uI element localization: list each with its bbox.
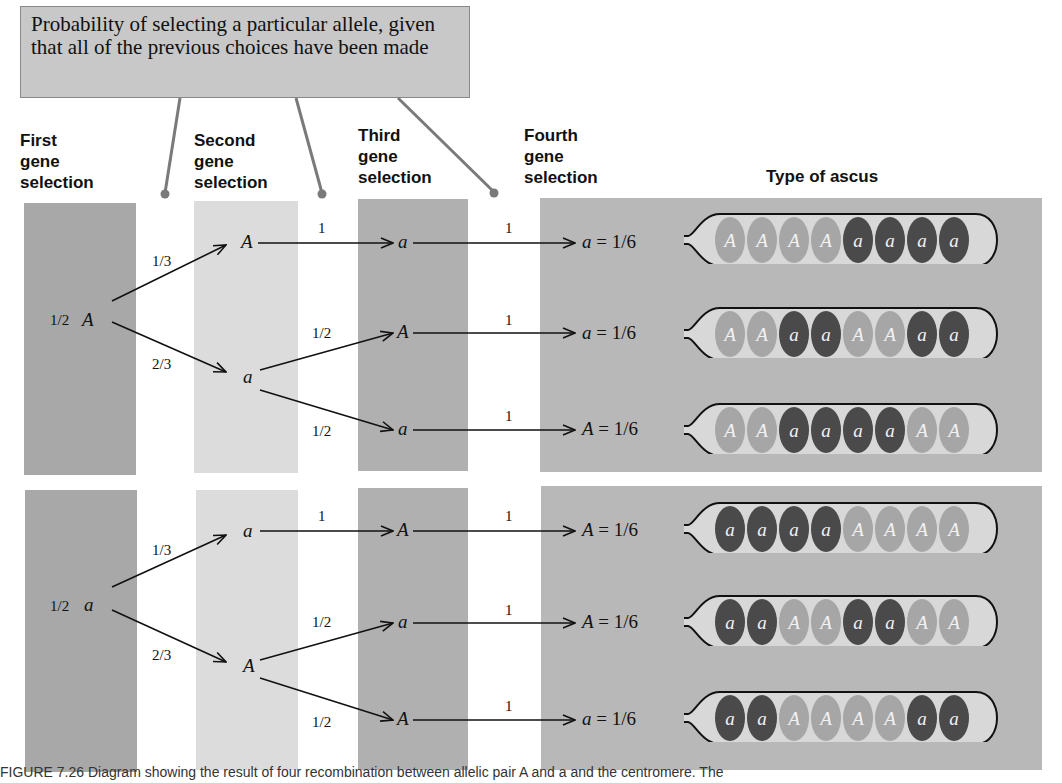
spore-label: a	[885, 612, 895, 633]
branch-prob: 1	[505, 312, 513, 329]
spore-label: a	[853, 230, 863, 251]
third-allele: a	[398, 418, 408, 440]
spore-label: a	[725, 708, 735, 729]
third-allele: A	[397, 519, 409, 541]
spore-label: A	[882, 708, 896, 729]
branch-prob: 1	[505, 508, 513, 525]
spore-label: A	[882, 324, 896, 345]
result-prob: 1/6	[614, 611, 638, 632]
fourth-allele: A	[582, 519, 594, 540]
fourth-result: a = 1/6	[582, 708, 636, 730]
root-allele-top: A	[82, 309, 94, 331]
result-prob: 1/6	[612, 231, 636, 252]
fourth-result: A = 1/6	[582, 418, 638, 440]
branch-prob: 1/3	[152, 542, 171, 559]
branch-prob: 1	[505, 408, 513, 425]
ascus: aaaaAAAA	[680, 499, 1000, 553]
spore-label: A	[850, 708, 864, 729]
spore-label: A	[914, 519, 928, 540]
spore-label: A	[818, 708, 832, 729]
result-prob: 1/6	[612, 708, 636, 729]
root-prob-bottom: 1/2	[50, 598, 69, 615]
third-allele: A	[397, 321, 409, 343]
spore-label: a	[917, 230, 927, 251]
spore-label: A	[722, 230, 736, 251]
spore-label: A	[786, 230, 800, 251]
result-prob: 1/6	[614, 519, 638, 540]
spore-label: A	[946, 420, 960, 441]
fourth-allele: a	[582, 231, 592, 252]
spore-label: a	[821, 519, 831, 540]
branch-prob: 1/3	[152, 253, 171, 270]
fourth-result: a = 1/6	[582, 231, 636, 253]
branch-prob: 1/2	[312, 423, 331, 440]
spore-label: a	[757, 708, 767, 729]
branch-prob: 1/2	[312, 714, 331, 731]
branch-prob: 2/3	[152, 647, 171, 664]
branch-prob: 1/2	[312, 614, 331, 631]
spore-label: a	[885, 420, 895, 441]
spore-label: A	[946, 612, 960, 633]
spore-label: A	[722, 324, 736, 345]
spore-label: a	[789, 324, 799, 345]
branch-prob: 1	[505, 698, 513, 715]
spore-label: a	[725, 519, 735, 540]
ascus: AAAAaaaa	[680, 210, 1000, 264]
fourth-result: a = 1/6	[582, 322, 636, 344]
third-allele: a	[398, 231, 408, 253]
spore-label: a	[949, 708, 959, 729]
branch-prob: 2/3	[152, 356, 171, 373]
spore-label: A	[818, 230, 832, 251]
spore-label: a	[789, 519, 799, 540]
ascus: AAaaAAaa	[680, 304, 1000, 358]
ascus: aaAAAAaa	[680, 688, 1000, 742]
spore-label: A	[786, 708, 800, 729]
spore-label: A	[754, 324, 768, 345]
spore-label: a	[885, 230, 895, 251]
third-allele: a	[398, 611, 408, 633]
tree-arrows	[0, 0, 1062, 783]
spore-label: a	[853, 420, 863, 441]
spore-label: A	[786, 612, 800, 633]
spore-label: a	[789, 420, 799, 441]
second-allele: A	[241, 231, 253, 253]
spore-label: a	[757, 519, 767, 540]
spore-label: a	[821, 324, 831, 345]
third-allele: A	[397, 708, 409, 730]
spore-label: A	[754, 230, 768, 251]
spore-label: A	[850, 519, 864, 540]
spore-label: a	[917, 708, 927, 729]
spore-label: a	[725, 612, 735, 633]
fourth-allele: A	[582, 611, 594, 632]
spore-label: a	[917, 324, 927, 345]
result-prob: 1/6	[614, 418, 638, 439]
spore-label: a	[757, 612, 767, 633]
fourth-allele: a	[582, 322, 592, 343]
spore-label: A	[882, 519, 896, 540]
fourth-result: A = 1/6	[582, 611, 638, 633]
second-allele: A	[243, 655, 255, 677]
spore-label: a	[821, 420, 831, 441]
root-allele-bottom: a	[84, 594, 94, 616]
branch-prob: 1	[318, 220, 326, 237]
spore-label: A	[722, 420, 736, 441]
root-prob-top: 1/2	[50, 312, 69, 329]
second-allele: a	[243, 520, 253, 542]
branch-prob: 1/2	[312, 325, 331, 342]
spore-label: A	[818, 612, 832, 633]
spore-label: A	[914, 612, 928, 633]
branch-prob: 1	[318, 508, 326, 525]
branch-prob: 1	[505, 602, 513, 619]
ascus: AAaaaaAA	[680, 400, 1000, 454]
spore-label: A	[914, 420, 928, 441]
ascus: aaAAaaAA	[680, 592, 1000, 646]
fourth-allele: a	[582, 708, 592, 729]
second-allele: a	[243, 366, 253, 388]
result-prob: 1/6	[612, 322, 636, 343]
spore-label: a	[949, 230, 959, 251]
spore-label: A	[754, 420, 768, 441]
figure-caption: FIGURE 7.26 Diagram showing the result o…	[0, 764, 1062, 780]
fourth-allele: A	[582, 418, 594, 439]
spore-label: A	[850, 324, 864, 345]
spore-label: a	[949, 324, 959, 345]
